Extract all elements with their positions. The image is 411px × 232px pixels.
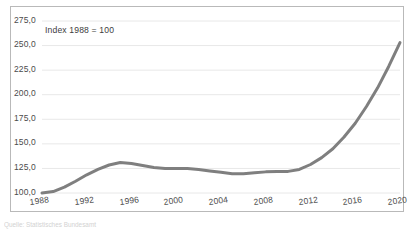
chart-canvas bbox=[11, 7, 403, 211]
y-axis-tick-label: 125,0 bbox=[14, 162, 36, 172]
source-note: Quelle: Statistisches Bundesamt bbox=[4, 221, 214, 230]
y-axis-tick-label: 225,0 bbox=[14, 64, 36, 74]
y-axis-tick-label: 250,0 bbox=[14, 39, 36, 49]
y-axis-tick-label: 100,0 bbox=[14, 187, 36, 197]
chart-figure: Index 1988 = 100 Quelle: Statistisches B… bbox=[0, 0, 411, 232]
y-axis-tick-label: 200,0 bbox=[14, 88, 36, 98]
y-axis-tick-label: 150,0 bbox=[14, 137, 36, 147]
chart-plot-frame bbox=[10, 6, 404, 212]
y-axis-tick-label: 275,0 bbox=[14, 15, 36, 25]
chart-annotation: Index 1988 = 100 bbox=[45, 25, 114, 35]
series-line-Index bbox=[42, 43, 400, 193]
x-axis-tick-label: 2020 bbox=[387, 194, 408, 207]
y-axis-tick-label: 175,0 bbox=[14, 113, 36, 123]
